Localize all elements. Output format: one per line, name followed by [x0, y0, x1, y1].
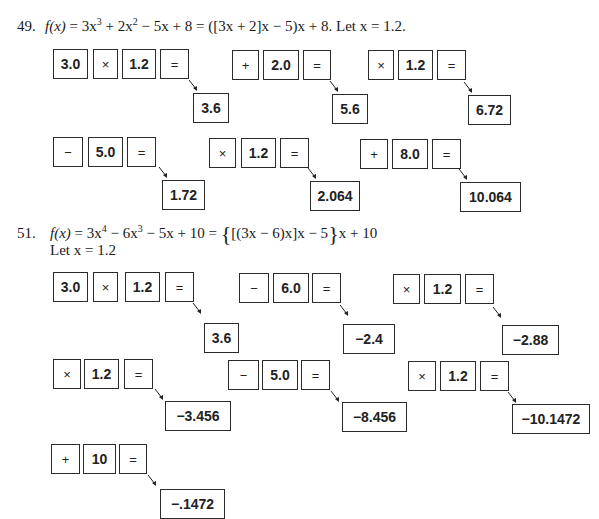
calc-key-equals: =: [127, 137, 156, 167]
calc-key-minus: −: [228, 360, 259, 390]
result-box: −3.456: [165, 401, 231, 431]
result-box: −2.88: [502, 325, 559, 355]
calc-key-equals: =: [165, 272, 194, 302]
result-box: 5.6: [332, 94, 368, 124]
calc-key-multiply: ×: [53, 359, 81, 389]
calc-key: 1.2: [424, 274, 461, 304]
problem-51-formula: f(x) = 3x4 − 6x3 − 5x + 10 = {[(3x − 6)x…: [50, 225, 377, 242]
calc-key-plus: +: [51, 444, 80, 474]
calc-key-minus: −: [239, 273, 269, 303]
result-box: 3.6: [193, 93, 229, 123]
calc-key-equals: =: [124, 359, 153, 389]
result-box: 2.064: [310, 181, 360, 211]
calc-key-equals: =: [119, 444, 147, 474]
formula-term: [(3x − 6)x]x − 5: [231, 225, 328, 241]
calc-key: 1.2: [84, 359, 119, 389]
result-box: −.1472: [160, 489, 225, 519]
calc-key-plus: +: [232, 50, 259, 80]
calc-key-equals: =: [280, 138, 309, 168]
calc-key-multiply: ×: [368, 50, 394, 80]
calc-key: 5.0: [88, 137, 123, 167]
problem-51-let-line: Let x = 1.2: [50, 242, 116, 259]
calc-key-multiply: ×: [93, 49, 118, 79]
problem-51-number: 51.: [17, 225, 36, 242]
calc-key: 1.2: [398, 50, 433, 80]
calc-key-minus: −: [53, 137, 83, 167]
formula-term: − 6x: [107, 225, 138, 241]
calc-key-equals: =: [303, 50, 331, 80]
formula-term: = 3x: [71, 225, 102, 241]
formula-term: = 3x: [66, 18, 97, 34]
calc-key-plus: +: [360, 139, 388, 169]
calc-key: 1.2: [122, 49, 156, 79]
formula-term: x + 10: [339, 225, 377, 241]
calc-key: 3.0: [53, 272, 88, 302]
result-box: 1.72: [162, 180, 205, 210]
calc-key: 2.0: [263, 50, 299, 80]
result-box: −2.4: [343, 324, 395, 354]
calc-key-equals: =: [160, 49, 189, 79]
result-box: −8.456: [342, 402, 407, 432]
calc-key: 8.0: [392, 139, 428, 169]
result-box: 3.6: [204, 323, 239, 353]
calc-key-multiply: ×: [393, 274, 420, 304]
calc-key-multiply: ×: [209, 138, 236, 168]
calc-key-multiply: ×: [93, 272, 118, 302]
result-box: 10.064: [460, 182, 521, 212]
formula-term: − 5x + 10 =: [143, 225, 221, 241]
calc-key-equals: =: [437, 50, 466, 80]
calc-key: 5.0: [262, 360, 298, 390]
calc-key: 6.0: [273, 273, 309, 303]
result-box: 6.72: [468, 95, 511, 125]
calc-key: 1.2: [440, 361, 476, 391]
calc-key: 10: [83, 444, 116, 474]
calc-key: 3.0: [53, 49, 88, 79]
brace-open: {: [221, 221, 232, 246]
calc-key-equals: =: [312, 273, 341, 303]
calc-key-multiply: ×: [408, 361, 436, 391]
calc-key: 1.2: [125, 272, 160, 302]
formula-term: − 5x + 8 = ([3x + 2]x − 5)x + 8. Let x =…: [138, 18, 406, 34]
formula-lhs: f(x): [50, 225, 71, 241]
calc-key-equals: =: [465, 274, 494, 304]
brace-close: }: [328, 221, 339, 246]
calc-key-equals: =: [480, 361, 509, 391]
problem-49-number: 49.: [17, 18, 36, 35]
calc-key: 1.2: [241, 138, 276, 168]
result-box: −10.1472: [512, 404, 590, 434]
formula-term: + 2x: [102, 18, 133, 34]
calc-key-equals: =: [301, 360, 330, 390]
calc-key-equals: =: [432, 139, 461, 169]
problem-49-formula: f(x) = 3x3 + 2x2 − 5x + 8 = ([3x + 2]x −…: [45, 18, 406, 35]
formula-lhs: f(x): [45, 18, 66, 34]
